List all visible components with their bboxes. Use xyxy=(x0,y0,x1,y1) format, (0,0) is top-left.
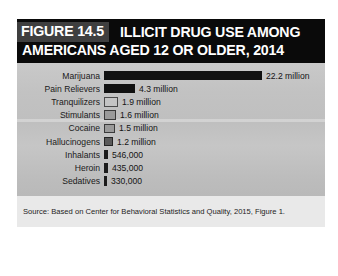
bar-track: 4.3 million xyxy=(104,82,325,95)
bar-row-label: Inhalants xyxy=(17,150,104,160)
bar-value-label: 1.9 million xyxy=(122,97,161,107)
bar-row-label: Pain Relievers xyxy=(17,84,104,94)
bar-track: 22.2 million xyxy=(104,69,325,82)
bar xyxy=(104,71,262,80)
bar-value-label: 1.2 million xyxy=(117,137,156,147)
figure-title-band: FIGURE 14.5 ILLICIT DRUG USE AMONG AMERI… xyxy=(17,19,325,63)
bar xyxy=(104,163,108,172)
bar xyxy=(104,124,115,133)
figure-title-text-part-1: ILLICIT DRUG USE AMONG xyxy=(120,24,300,41)
bar-row: Sedatives330,000 xyxy=(17,175,325,188)
bar-value-label: 330,000 xyxy=(111,176,142,186)
page-canvas: FIGURE 14.5 ILLICIT DRUG USE AMONG AMERI… xyxy=(0,0,338,276)
bar-row: Heroin435,000 xyxy=(17,161,325,174)
bar-track: 546,000 xyxy=(104,148,325,161)
bar xyxy=(104,84,135,93)
bar-value-label: 22.2 million xyxy=(266,71,309,81)
bar-row-label: Sedatives xyxy=(17,176,104,186)
bar xyxy=(104,110,116,119)
source-band: Source: Based on Center for Behavioral S… xyxy=(17,196,325,227)
bar-track: 1.5 million xyxy=(104,122,325,135)
bar-row-label: Stimulants xyxy=(17,110,104,120)
bar-row-label: Cocaine xyxy=(17,123,104,133)
figure-title-line-2: AMERICANS AGED 12 OR OLDER, 2014 xyxy=(17,42,325,59)
bar-track: 1.6 million xyxy=(104,109,325,122)
bar-row: Stimulants1.6 million xyxy=(17,109,325,122)
figure-container: FIGURE 14.5 ILLICIT DRUG USE AMONG AMERI… xyxy=(17,19,325,257)
bar xyxy=(104,176,107,185)
chart-panel: Marijuana22.2 millionPain Relievers4.3 m… xyxy=(17,63,325,196)
bar xyxy=(104,97,118,106)
bar-row-label: Marijuana xyxy=(17,71,104,81)
bar-track: 330,000 xyxy=(104,175,325,188)
figure-title-line-1: FIGURE 14.5 ILLICIT DRUG USE AMONG xyxy=(17,22,325,42)
figure-number-tag: FIGURE 14.5 xyxy=(17,22,109,42)
bar-value-label: 546,000 xyxy=(112,150,143,160)
bar-row-label: Heroin xyxy=(17,163,104,173)
bar-track: 1.9 million xyxy=(104,95,325,108)
bar-row: Hallucinogens1.2 million xyxy=(17,135,325,148)
bar-track: 435,000 xyxy=(104,161,325,174)
bar-value-label: 435,000 xyxy=(112,163,143,173)
bar-row: Marijuana22.2 million xyxy=(17,69,325,82)
bar-chart-rows: Marijuana22.2 millionPain Relievers4.3 m… xyxy=(17,69,325,188)
bar-row: Pain Relievers4.3 million xyxy=(17,82,325,95)
source-note: Source: Based on Center for Behavioral S… xyxy=(17,207,285,217)
bar xyxy=(104,137,113,146)
bar-value-label: 1.6 million xyxy=(120,110,159,120)
bar-row: Tranquilizers1.9 million xyxy=(17,95,325,108)
bar-row-label: Tranquilizers xyxy=(17,97,104,107)
bar-value-label: 4.3 million xyxy=(139,84,178,94)
bar-track: 1.2 million xyxy=(104,135,325,148)
bar-value-label: 1.5 million xyxy=(119,123,158,133)
bar-row: Cocaine1.5 million xyxy=(17,122,325,135)
bar-row-label: Hallucinogens xyxy=(17,137,104,147)
bar-row: Inhalants546,000 xyxy=(17,148,325,161)
bar xyxy=(104,150,108,159)
